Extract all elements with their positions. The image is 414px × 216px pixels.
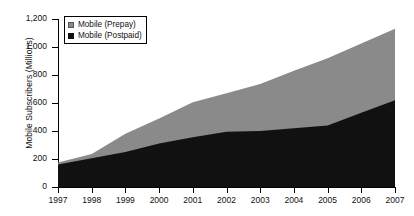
- legend-label-postpaid: Mobile (Postpaid): [78, 30, 142, 41]
- x-tick-1998: [92, 188, 93, 193]
- y-tick-label-1,200: 1,200: [7, 13, 47, 23]
- x-tick-2006: [361, 188, 362, 193]
- x-tick-1997: [58, 188, 59, 193]
- x-tick-label-2007: 2007: [375, 195, 414, 205]
- x-tick-2002: [227, 188, 228, 193]
- chart-legend: Mobile (Prepay) Mobile (Postpaid): [64, 16, 147, 44]
- legend-swatch-prepay: [68, 22, 74, 28]
- x-tick-1999: [125, 188, 126, 193]
- legend-label-prepay: Mobile (Prepay): [78, 19, 136, 30]
- legend-item-postpaid: Mobile (Postpaid): [68, 30, 142, 41]
- x-tick-2005: [328, 188, 329, 193]
- y-tick-label-800: 800: [7, 69, 47, 79]
- x-tick-2007: [395, 188, 396, 193]
- x-tick-2001: [193, 188, 194, 193]
- y-tick-label-200: 200: [7, 153, 47, 163]
- y-tick-label-0: 0: [7, 181, 47, 191]
- chart-container: Mobile Subscribers (Millions) 0200400600…: [0, 0, 414, 216]
- y-tick-label-1,000: 1,000: [7, 41, 47, 51]
- y-tick-label-600: 600: [7, 97, 47, 107]
- y-tick-label-400: 400: [7, 125, 47, 135]
- legend-swatch-postpaid: [68, 33, 74, 39]
- x-tick-2000: [159, 188, 160, 193]
- legend-item-prepay: Mobile (Prepay): [68, 19, 142, 30]
- stacked-area-plot: [58, 19, 395, 188]
- x-tick-2003: [260, 188, 261, 193]
- x-tick-2004: [294, 188, 295, 193]
